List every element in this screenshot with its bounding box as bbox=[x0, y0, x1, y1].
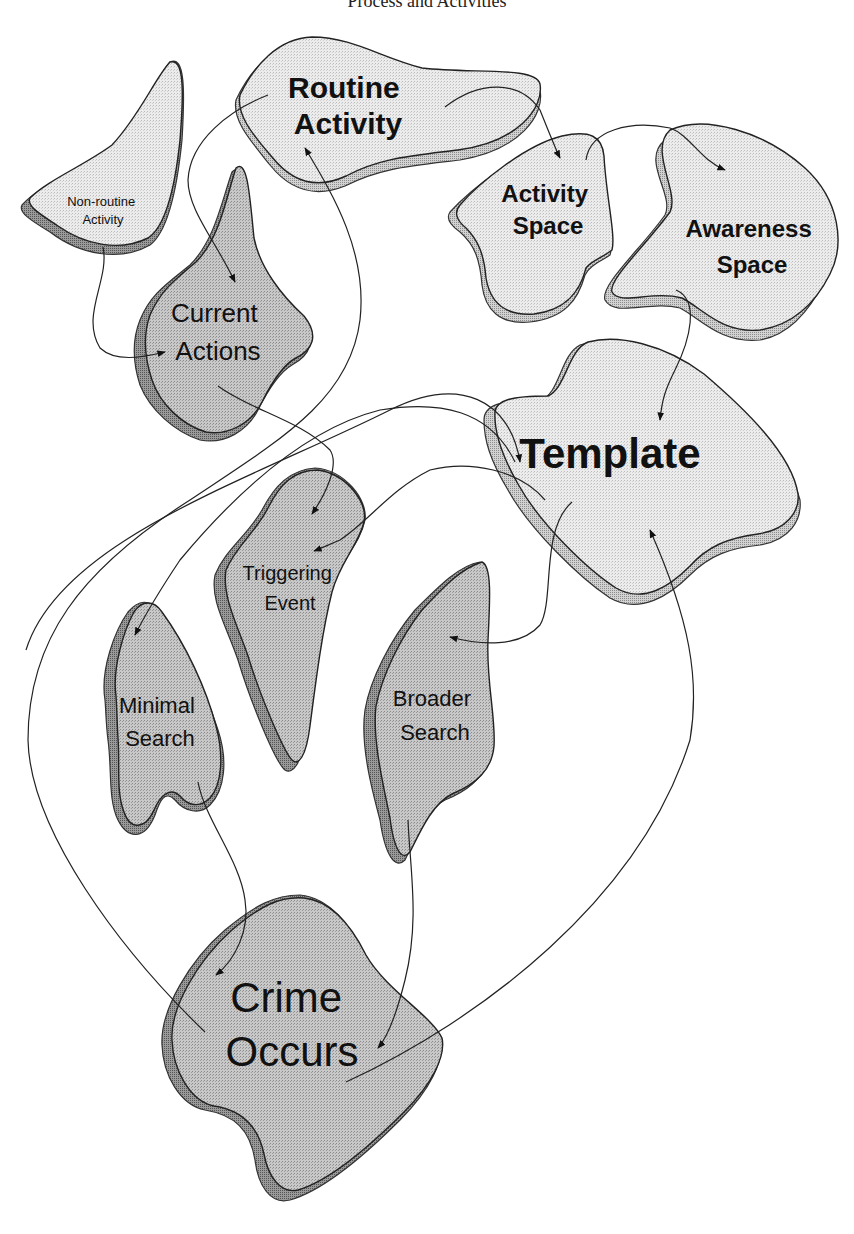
process-diagram: Non-routine Activity Routine Activity Cu… bbox=[0, 0, 854, 1234]
node-broader-search: Broader Search bbox=[364, 562, 494, 863]
node-awareness-space: Awareness Space bbox=[605, 124, 838, 340]
node-crime-occurs: Crime Occurs bbox=[162, 895, 443, 1201]
node-minimal-search: Minimal Search bbox=[104, 602, 224, 834]
node-triggering-event: Triggering Event bbox=[214, 468, 365, 771]
node-routine-activity: Routine Activity bbox=[235, 37, 540, 191]
node-label: Template bbox=[519, 430, 700, 477]
node-non-routine-activity: Non-routine Activity bbox=[21, 61, 183, 254]
node-activity-space: Activity Space bbox=[448, 134, 612, 323]
node-template: Template bbox=[484, 339, 800, 604]
